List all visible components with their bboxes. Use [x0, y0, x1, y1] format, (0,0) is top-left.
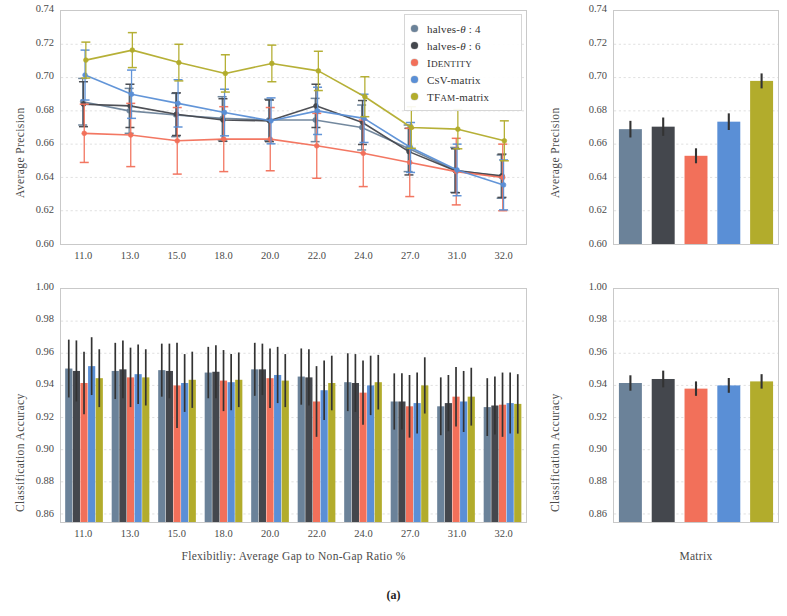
y-tick-label: 0.68 — [569, 104, 607, 115]
legend-item: halves-θ : 4 — [411, 20, 512, 37]
bottom-right-plot-area — [613, 288, 779, 523]
x-tick-label: 18.0 — [199, 250, 247, 261]
data-point — [314, 143, 319, 148]
bottom-right-xlabel: Matrix — [613, 550, 779, 562]
data-point — [83, 58, 88, 63]
bottom-left-xlabel: Flexibitliy: Average Gap to Non-Gap Rati… — [60, 550, 527, 562]
data-point — [268, 137, 273, 142]
bar — [619, 383, 642, 522]
x-tick-label: 22.0 — [293, 528, 341, 539]
legend-item: TFAM-matrix — [411, 88, 512, 105]
legend-marker-icon — [411, 93, 418, 100]
x-tick-label: 31.0 — [433, 528, 481, 539]
data-point — [269, 61, 274, 66]
x-tick-label: 24.0 — [340, 528, 388, 539]
y-tick-label: 0.94 — [16, 378, 54, 389]
data-point — [176, 101, 181, 106]
data-point — [501, 183, 506, 188]
data-point — [408, 145, 413, 150]
data-point — [500, 175, 505, 180]
y-tick-label: 1.00 — [16, 281, 54, 292]
y-tick-label: 0.74 — [16, 3, 54, 14]
data-point — [315, 108, 320, 113]
data-point — [175, 138, 180, 143]
y-tick-label: 0.88 — [569, 475, 607, 486]
y-tick-label: 0.64 — [569, 171, 607, 182]
figure-caption: (a) — [0, 588, 787, 603]
y-tick-label: 0.74 — [569, 3, 607, 14]
figure-panel-a: Average Precision 0.740.720.700.680.660.… — [0, 0, 787, 616]
data-point — [361, 151, 366, 156]
x-tick-label: 22.0 — [293, 250, 341, 261]
top-left-ylabel: Average Precision — [14, 107, 26, 198]
legend-item-label: CSV-matrix — [427, 74, 481, 86]
data-point — [502, 138, 507, 143]
y-tick-label: 0.96 — [569, 346, 607, 357]
bottom-right-ylabel: Classification Accuracy — [549, 393, 561, 512]
legend-item: halves-θ : 6 — [411, 37, 512, 54]
y-tick-label: 0.60 — [16, 238, 54, 249]
bar — [717, 385, 740, 522]
x-tick-label: 24.0 — [340, 250, 388, 261]
y-tick-label: 0.90 — [569, 443, 607, 454]
y-tick-label: 0.92 — [569, 411, 607, 422]
y-tick-label: 0.98 — [16, 313, 54, 324]
y-tick-label: 0.88 — [16, 475, 54, 486]
data-point — [409, 125, 414, 130]
bar — [685, 156, 708, 244]
x-tick-label: 13.0 — [106, 250, 154, 261]
data-point — [269, 118, 274, 123]
data-point — [221, 137, 226, 142]
data-point — [176, 60, 181, 65]
y-tick-label: 0.70 — [16, 70, 54, 81]
y-tick-label: 0.86 — [569, 508, 607, 519]
legend-item-label: IDENTITY — [427, 57, 472, 69]
y-tick-label: 0.90 — [16, 443, 54, 454]
legend-marker-icon — [411, 42, 418, 49]
y-tick-label: 0.96 — [16, 346, 54, 357]
data-point — [407, 160, 412, 165]
legend-item-label: TFAM-matrix — [427, 91, 489, 103]
y-tick-label: 0.66 — [569, 137, 607, 148]
y-tick-label: 0.64 — [16, 171, 54, 182]
x-tick-label: 32.0 — [480, 528, 528, 539]
x-tick-label: 27.0 — [386, 528, 434, 539]
bar — [717, 122, 740, 244]
legend-marker-icon — [411, 59, 418, 66]
data-point — [130, 48, 135, 53]
top-right-plot-area — [613, 10, 779, 245]
y-tick-label: 0.86 — [16, 508, 54, 519]
y-tick-label: 0.60 — [569, 238, 607, 249]
data-point — [83, 73, 88, 78]
x-tick-label: 27.0 — [386, 250, 434, 261]
x-tick-label: 20.0 — [246, 250, 294, 261]
y-tick-label: 0.70 — [569, 70, 607, 81]
data-point — [129, 92, 134, 97]
x-tick-label: 20.0 — [246, 528, 294, 539]
y-tick-label: 0.92 — [16, 411, 54, 422]
bar — [685, 389, 708, 522]
x-tick-label: 32.0 — [480, 250, 528, 261]
y-tick-label: 1.00 — [569, 281, 607, 292]
legend-item-label: halves-θ : 4 — [427, 23, 481, 35]
legend-series: halves-θ : 4halves-θ : 6IDENTITYCSV-matr… — [404, 14, 522, 111]
y-tick-label: 0.62 — [569, 204, 607, 215]
legend-marker-icon — [411, 25, 418, 32]
data-point — [455, 127, 460, 132]
bar — [750, 81, 773, 244]
data-point — [223, 71, 228, 76]
data-point — [455, 168, 460, 173]
bar — [652, 379, 675, 522]
x-tick-label: 11.0 — [59, 250, 107, 261]
y-tick-label: 0.94 — [569, 378, 607, 389]
x-tick-label: 18.0 — [199, 528, 247, 539]
bar — [652, 127, 675, 244]
top-right-ylabel: Average Precision — [549, 107, 561, 198]
series-line — [83, 104, 502, 176]
legend-item-label: halves-θ : 6 — [427, 40, 481, 52]
legend-item: CSV-matrix — [411, 71, 512, 88]
data-point — [222, 110, 227, 115]
bar — [750, 381, 773, 522]
y-tick-label: 0.98 — [569, 313, 607, 324]
data-point — [128, 133, 133, 138]
